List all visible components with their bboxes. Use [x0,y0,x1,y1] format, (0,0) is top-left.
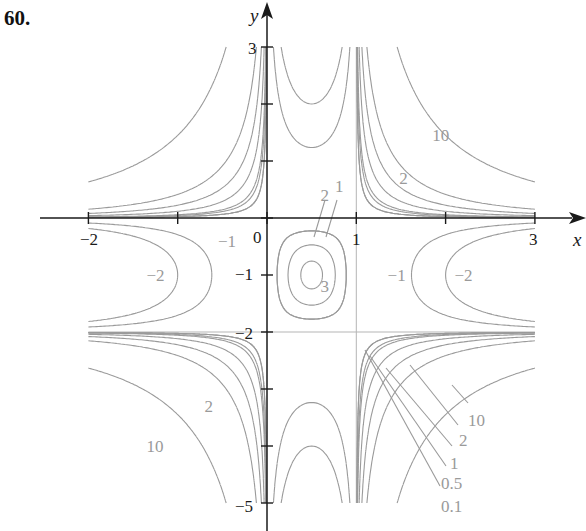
contour-level-label: −1 [218,232,236,251]
contour-level-label: −2 [146,266,164,285]
y-tick-label: −2 [235,324,253,343]
level-label-leader [452,385,468,403]
contour-level-label: 2 [459,431,468,450]
contour-level-label: 2 [321,186,330,205]
contour-level-labels: 102213−1−2−1−221010210.50.1 [146,126,485,515]
level-label-leader [370,356,446,466]
x-tick-label: −2 [80,230,98,249]
contour-level-label: 1 [335,177,344,196]
x-tick-label: 0 [253,228,262,247]
contour-level-label: 1 [450,454,459,473]
x-axis-label: x [572,229,582,250]
y-tick-label: −1 [235,265,253,284]
x-tick-label: 1 [352,230,361,249]
y-tick-label: −5 [235,497,253,516]
axes [40,2,586,531]
contour-level-label: 3 [321,277,330,296]
contour-level-label: 10 [468,411,485,430]
contour-level-label: 0.1 [441,497,462,516]
contour-level-label: 0.5 [441,474,462,493]
contour-level-label: 2 [399,169,408,188]
contour-level-label: −2 [455,266,473,285]
y-axis-label: y [248,5,259,26]
contour-level-label: 2 [205,397,214,416]
level-label-leader [410,365,458,425]
contour-plot: −20133−1−2−5 x y 102213−1−2−1−221010210.… [0,0,586,531]
contour-level-label: 10 [146,437,163,456]
x-tick-label: 3 [529,230,538,249]
contour-level-label: 10 [432,126,449,145]
contour-level-label: −1 [388,266,406,285]
y-tick-label: 3 [248,39,257,58]
